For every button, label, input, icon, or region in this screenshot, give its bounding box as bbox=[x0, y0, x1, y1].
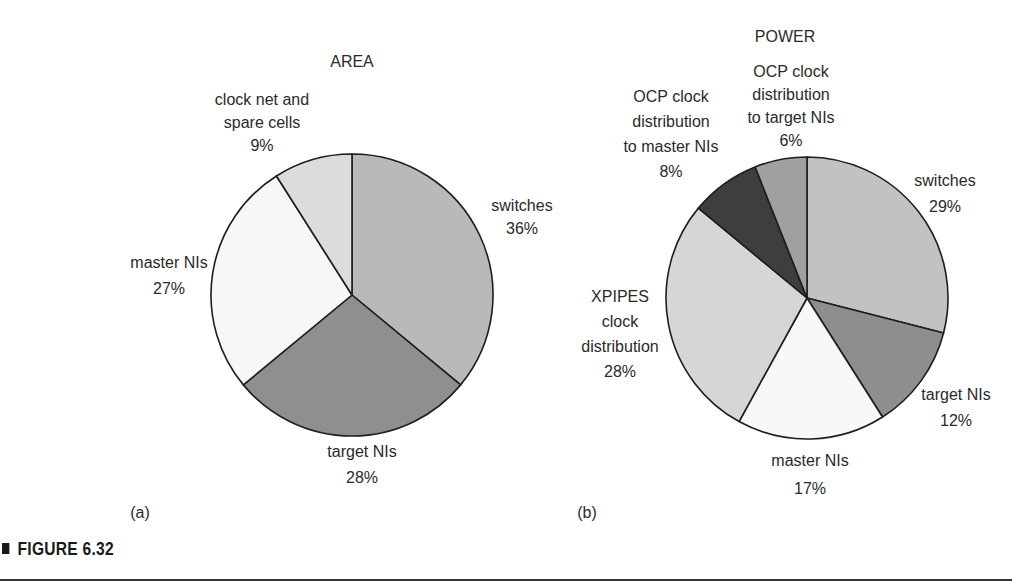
power-label-ocp-target-line2: distribution bbox=[752, 86, 829, 103]
power-pct-switches: 29% bbox=[929, 198, 961, 215]
figure-caption: FIGURE 6.32 bbox=[2, 538, 114, 560]
panel-label-a: (a) bbox=[130, 504, 150, 521]
power-label-switches: switches bbox=[914, 172, 975, 189]
area-label-clock-line1: clock net and bbox=[215, 91, 309, 108]
power-label-ocp-master-line3: to master NIs bbox=[623, 138, 718, 155]
caption-text: FIGURE 6.32 bbox=[18, 538, 114, 559]
power-label-xpipes-line2: clock bbox=[602, 313, 639, 330]
area-title: AREA bbox=[330, 53, 374, 70]
area-pct-master: 27% bbox=[153, 280, 185, 297]
caption-square-icon bbox=[2, 543, 9, 554]
power-label-xpipes-line3: distribution bbox=[581, 338, 658, 355]
power-pct-ocp-target: 6% bbox=[779, 132, 802, 149]
power-pct-ocp-master: 8% bbox=[659, 163, 682, 180]
area-label-switches: switches bbox=[491, 197, 552, 214]
panel-label-b: (b) bbox=[577, 504, 597, 521]
power-title: POWER bbox=[755, 28, 815, 45]
figure-canvas: AREA switches 36% target NIs 28% master … bbox=[0, 0, 1028, 586]
power-pct-xpipes: 28% bbox=[604, 363, 636, 380]
pie-power: POWER switches 29% target NIs 12% master… bbox=[577, 28, 990, 521]
area-label-clock-line2: spare cells bbox=[224, 114, 300, 131]
pie-power-slices bbox=[666, 157, 948, 439]
area-label-target: target NIs bbox=[327, 443, 396, 460]
power-label-ocp-target-line3: to target NIs bbox=[747, 109, 834, 126]
power-pct-master: 17% bbox=[794, 480, 826, 497]
caption-rule bbox=[0, 579, 1012, 581]
power-label-target: target NIs bbox=[921, 386, 990, 403]
area-label-master: master NIs bbox=[130, 254, 207, 271]
area-pct-switches: 36% bbox=[506, 220, 538, 237]
power-label-ocp-master-line2: distribution bbox=[632, 113, 709, 130]
power-label-xpipes-line1: XPIPES bbox=[591, 288, 649, 305]
area-pct-target: 28% bbox=[346, 469, 378, 486]
power-label-ocp-target-line1: OCP clock bbox=[753, 63, 829, 80]
power-label-ocp-master-line1: OCP clock bbox=[633, 88, 709, 105]
power-pct-target: 12% bbox=[940, 412, 972, 429]
power-label-master: master NIs bbox=[771, 452, 848, 469]
area-pct-clock: 9% bbox=[250, 137, 273, 154]
pie-area: AREA switches 36% target NIs 28% master … bbox=[130, 53, 552, 521]
pie-area-slices bbox=[211, 154, 493, 436]
